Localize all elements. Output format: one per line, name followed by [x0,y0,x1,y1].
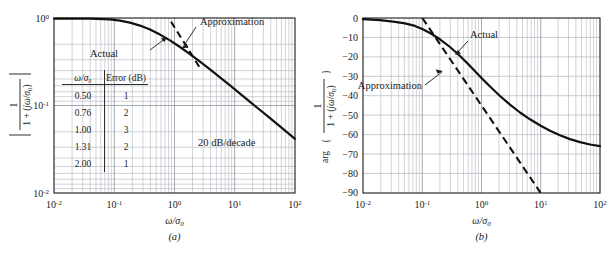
y-label-numerator-b: 1 [313,103,323,108]
approximation-label-b: Approximation [358,80,423,91]
x-axis-label-a: ω/σ0 [165,215,184,228]
approximation-label-a: Approximation [200,16,265,27]
x-tick-label: 10-1 [106,199,122,210]
x-tick-label: 101 [534,199,548,210]
actual-label-a: Actual [90,48,118,59]
y-tick-label: 10-1 [33,100,49,111]
panel-b-phase: Actual Approximation 0 −10 −20 −30 −40 −… [300,0,611,253]
table-cell-error: 1 [124,159,129,169]
table-header-omega: ω/σ₀ [74,73,91,83]
x-tick-label: 10-2 [355,199,371,210]
y-tick-label: −80 [342,168,358,179]
table-cell-error: 1 [124,91,129,101]
y-tick-label: 100 [36,13,50,24]
x-tick-labels-b: 10-2 10-1 100 101 102 [355,199,607,210]
y-tick-label: −60 [342,129,358,140]
y-tick-label: 0 [353,13,358,24]
y-tick-labels-b: 0 −10 −20 −30 −40 −50 −60 −70 −80 −90 [342,13,358,199]
bode-plot-figure: Actual Approximation 20 dB/decade ω/σ₀ E… [0,0,611,253]
panel-caption-b: (b) [475,231,488,243]
x-tick-label: 100 [168,199,182,210]
y-tick-label: 10-2 [33,188,49,199]
table-cell-omega: 0.76 [75,108,92,118]
y-tick-label: −90 [342,187,358,198]
y-label-denominator-b: 1 + (jω/σ0) [326,85,338,126]
table-cell-error: 2 [124,108,129,118]
x-tick-label: 101 [228,199,242,210]
y-axis-label-b: arg { 1 1 + (jω/σ0) } [313,70,338,163]
x-tick-label: 102 [593,199,607,210]
actual-label-b: Actual [470,29,498,40]
slope-label-a: 20 dB/decade [198,137,256,148]
y-tick-label: −30 [342,71,358,82]
x-tick-label: 100 [475,199,489,210]
panel-caption-a: (a) [168,231,181,243]
y-axis-label-a: 1 1 + (jω/σ0) [9,74,34,135]
table-cell-omega: 0.50 [75,91,92,101]
table-header-error: Error (dB) [106,73,146,84]
panel-a-magnitude: Actual Approximation 20 dB/decade ω/σ₀ E… [0,0,305,253]
x-tick-labels-a: 10-2 10-1 100 101 102 [46,199,302,210]
table-cell-omega: 2.00 [75,159,92,169]
table-cell-error: 2 [124,142,129,152]
x-axis-label-b: ω/σ0 [472,215,491,228]
y-tick-labels-a: 100 10-1 10-2 [33,13,49,199]
y-label-prefix-b: arg [320,151,330,163]
y-tick-label: −10 [342,32,358,43]
y-tick-label: −20 [342,51,358,62]
x-tick-label: 10-1 [414,199,430,210]
table-cell-omega: 1.31 [75,142,92,152]
y-label-numerator-a: 1 [9,102,19,107]
table-cell-error: 3 [124,125,129,135]
table-cell-omega: 1.00 [75,125,92,135]
y-label-brace-close-b: } [321,70,331,75]
y-tick-label: −40 [342,90,358,101]
y-label-brace-open-b: { [321,139,331,144]
y-tick-label: −50 [342,110,358,121]
x-tick-label: 10-2 [46,199,62,210]
y-tick-label: −70 [342,149,358,160]
